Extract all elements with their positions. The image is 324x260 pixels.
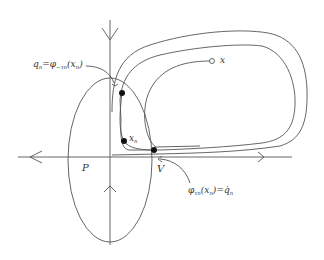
label-P: P <box>82 163 89 173</box>
phi-subscript: −τ <box>56 64 64 70</box>
paren-close: ) <box>79 59 83 69</box>
leader-phi <box>160 159 190 183</box>
qdot-subscript: n <box>230 190 233 196</box>
equals-sign-2: = <box>216 185 224 195</box>
label-V: V <box>157 164 164 174</box>
point-x-marker <box>210 59 215 64</box>
label-x-n: xn <box>129 134 138 144</box>
equals-sign: = <box>42 59 50 69</box>
label-qn-equation: qn=φ−τn(xn) <box>33 60 83 70</box>
label-x: x <box>220 56 225 65</box>
point-q-n <box>119 90 125 96</box>
label-phi-equation: φτn(xn)=q̇n <box>188 186 233 196</box>
trajectory-x-to-xn <box>145 61 210 147</box>
xn-subscript: n <box>134 138 137 144</box>
point-x-n <box>121 138 127 144</box>
phase-portrait-diagram <box>0 0 324 260</box>
orbit-outer <box>112 31 307 155</box>
leader-qn-arrow <box>112 84 118 86</box>
point-V <box>151 147 157 153</box>
